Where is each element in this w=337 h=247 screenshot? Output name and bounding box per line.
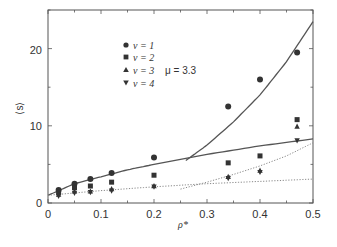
circle-point — [257, 76, 263, 82]
x-tick-label: 0.5 — [305, 208, 320, 220]
x-tick-label: 0.3 — [199, 208, 214, 220]
x-tick-label: 0 — [45, 208, 51, 220]
circle-marker-icon — [123, 42, 128, 47]
x-tick-label: 0.4 — [252, 208, 267, 220]
mu-annotation: μ = 3.3 — [165, 65, 196, 76]
square-point — [109, 180, 114, 185]
square-marker-icon — [124, 55, 129, 60]
square-point — [226, 160, 231, 165]
triangle-up-marker-icon — [123, 67, 129, 72]
fit-solid-low-curve — [48, 139, 313, 195]
axis-ticks — [48, 10, 313, 203]
legend-label: ν = 4 — [133, 78, 154, 89]
fit-curves — [48, 22, 313, 196]
circle-point — [294, 49, 300, 55]
y-axis-label: ⟨s⟩ — [14, 102, 25, 115]
circle-point — [87, 176, 93, 182]
y-tick-label: 20 — [30, 44, 42, 56]
y-tick-label: 0 — [36, 197, 42, 209]
triangle-down-marker-icon — [123, 81, 129, 86]
fit-dotted-low-curve — [48, 179, 313, 195]
legend-label: ν = 2 — [133, 52, 154, 63]
fit-solid-high-curve — [186, 22, 313, 161]
circle-point — [109, 170, 115, 176]
square-point — [152, 173, 157, 178]
legend: ν = 1 ν = 2 ν = 3 ν = 4 — [123, 40, 154, 89]
x-tick-label: 0.1 — [93, 208, 108, 220]
circle-point — [151, 154, 157, 160]
x-axis-label: ρ* — [177, 219, 188, 230]
triangle-up-point — [294, 124, 299, 129]
legend-label: ν = 1 — [133, 40, 154, 51]
circle-point — [225, 104, 231, 110]
scatter-chart: 0 0.1 0.2 0.3 0.4 0.5 0 10 20 ρ* ⟨s⟩ ν =… — [0, 0, 337, 247]
square-point — [258, 153, 263, 158]
square-point — [88, 184, 93, 189]
x-tick-label: 0.2 — [146, 208, 161, 220]
plot-frame — [48, 10, 313, 203]
legend-label: ν = 3 — [133, 65, 154, 76]
y-tick-label: 10 — [30, 120, 42, 132]
square-point — [295, 117, 300, 122]
